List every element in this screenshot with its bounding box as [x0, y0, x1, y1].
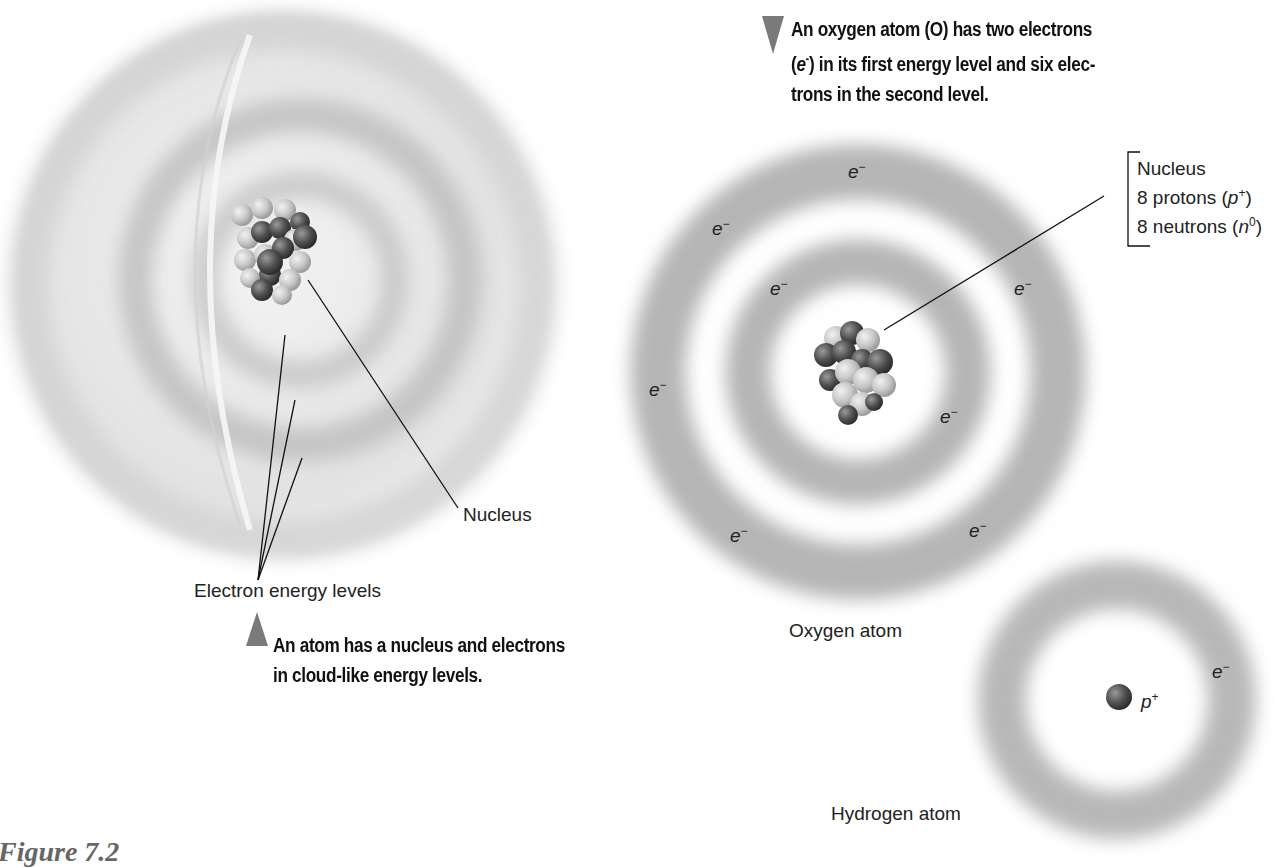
electron-label: e−	[770, 277, 788, 300]
energy-levels-label: Electron energy levels	[194, 580, 381, 602]
caption-line: An oxygen atom (O) has two electrons	[791, 14, 1095, 44]
oxygen-nucleus-info: Nucleus 8 protons (p+) 8 neutrons (n0)	[1137, 157, 1262, 239]
oxygen-atom-title: Oxygen atom	[789, 620, 902, 642]
caption-line: (e-) in its first energy level and six e…	[791, 44, 1095, 79]
electron-label: e−	[730, 524, 748, 547]
caption-pointer-up-icon	[246, 612, 268, 646]
hydrogen-atom-illustration	[1002, 585, 1232, 815]
oxygen-atom-illustration	[658, 152, 1150, 572]
electron-label: e−	[969, 519, 987, 542]
electron-label: e−	[848, 160, 866, 183]
electron-label: e−	[940, 405, 958, 428]
hydrogen-proton-label: p+	[1141, 690, 1159, 713]
hydrogen-atom-title: Hydrogen atom	[831, 803, 961, 825]
caption-line: in cloud-like energy levels.	[273, 660, 565, 690]
electron-label: e−	[712, 217, 730, 240]
cutaway-atom-illustration	[15, 13, 551, 580]
electron-label: e−	[1014, 277, 1032, 300]
hydrogen-proton	[1106, 684, 1132, 710]
caption-line: An atom has a nucleus and electrons	[273, 630, 565, 660]
oxygen-nucleus	[814, 321, 896, 425]
electron-label: e−	[649, 378, 667, 401]
nucleus-label: Nucleus	[463, 504, 532, 526]
cutaway-atom-caption: An atom has a nucleus and electrons in c…	[273, 630, 565, 690]
figure-number: Figure 7.2	[0, 836, 119, 868]
hydrogen-electron-label: e−	[1212, 660, 1230, 683]
caption-line: trons in the second level.	[791, 79, 1095, 109]
caption-pointer-down-icon	[762, 16, 784, 54]
oxygen-atom-caption: An oxygen atom (O) has two electrons (e-…	[791, 14, 1095, 109]
